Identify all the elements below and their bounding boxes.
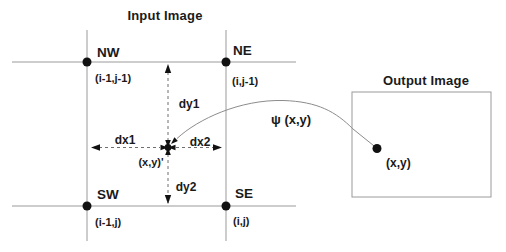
output-point-label: (x,y) <box>386 156 411 170</box>
coord-nw: (i-1,j-1) <box>95 72 131 84</box>
input-image-grid <box>12 30 296 241</box>
dx1-arrowhead-left <box>91 144 100 150</box>
label-ne: NE <box>233 43 252 58</box>
interpolation-point-label: (x,y)' <box>138 156 164 168</box>
coord-se: (i,j) <box>233 215 250 227</box>
label-se: SE <box>235 186 253 201</box>
interpolation-point <box>165 144 172 151</box>
coord-ne: (i,j-1) <box>232 75 259 87</box>
dy2-arrowhead-down <box>165 195 171 204</box>
mapping-function-label: ψ (x,y) <box>271 112 311 127</box>
interpolation-diagram: Input Image Output Image NW (i-1,j-1) NE… <box>0 0 506 252</box>
coord-sw: (i-1,j) <box>95 216 122 228</box>
bilinear-interpolation-figure: Input Image Output Image NW (i-1,j-1) NE… <box>0 0 506 252</box>
input-image-title: Input Image <box>127 8 202 23</box>
output-point <box>373 144 382 153</box>
point-sw <box>83 202 92 211</box>
label-nw: NW <box>97 45 120 60</box>
dy1-label: dy1 <box>179 97 200 111</box>
dx2-arrowhead-right <box>213 144 222 150</box>
dx1-label: dx1 <box>115 133 136 147</box>
dy2-label: dy2 <box>176 180 197 194</box>
point-ne <box>222 58 231 67</box>
point-nw <box>83 58 92 67</box>
point-se <box>222 202 231 211</box>
output-image-title: Output Image <box>383 73 469 88</box>
distance-arrows <box>91 64 222 204</box>
dy1-arrowhead-up <box>165 64 171 73</box>
dx2-label: dx2 <box>190 135 211 149</box>
label-sw: SW <box>97 187 119 202</box>
